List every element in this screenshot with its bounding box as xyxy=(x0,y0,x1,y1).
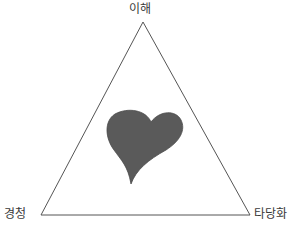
vertex-label-understanding: 이해 xyxy=(129,2,151,16)
diagram-canvas: 이해 경청 타당화 xyxy=(0,0,297,233)
heart-icon xyxy=(107,110,183,184)
vertex-label-listening: 경청 xyxy=(4,207,26,221)
vertex-label-validation: 타당화 xyxy=(254,207,287,221)
triangle-diagram xyxy=(0,0,297,233)
